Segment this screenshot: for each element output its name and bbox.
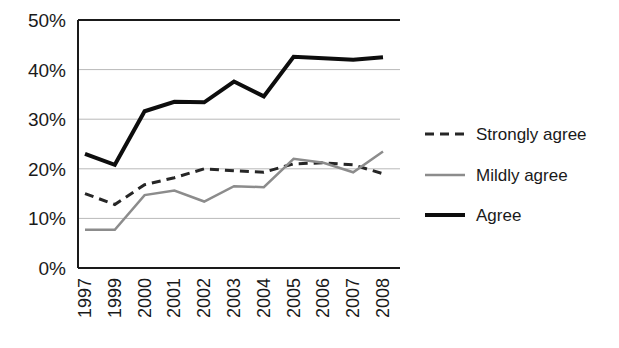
y-tick-label-0pct: 0%: [39, 258, 67, 279]
x-tick-label-2001: 2001: [164, 278, 184, 318]
x-tick-label-2004: 2004: [254, 278, 274, 318]
x-tick-label-2007: 2007: [343, 278, 363, 318]
line-chart: 0%10%20%30%40%50% 1997199920002001200220…: [0, 0, 619, 348]
legend-label-strongly-agree: Strongly agree: [476, 125, 587, 144]
x-tick-label-2008: 2008: [373, 278, 393, 318]
y-tick-label-40pct: 40%: [28, 60, 66, 81]
x-tick-label-2002: 2002: [194, 278, 214, 318]
y-tick-label-20pct: 20%: [28, 159, 66, 180]
chart-container: 0%10%20%30%40%50% 1997199920002001200220…: [0, 0, 619, 348]
x-tick-label-1999: 1999: [105, 278, 125, 318]
legend-label-agree: Agree: [476, 206, 521, 225]
y-tick-label-10pct: 10%: [28, 208, 66, 229]
x-tick-label-2005: 2005: [284, 278, 304, 318]
x-axis-tick-labels: 1997199920002001200220032004200520062007…: [75, 278, 393, 318]
x-tick-label-1997: 1997: [75, 278, 95, 318]
y-tick-label-30pct: 30%: [28, 109, 66, 130]
legend-label-mildly-agree: Mildly agree: [476, 166, 568, 185]
x-tick-label-2006: 2006: [313, 278, 333, 318]
y-tick-label-50pct: 50%: [28, 10, 66, 31]
x-tick-label-2003: 2003: [224, 278, 244, 318]
x-tick-label-2000: 2000: [135, 278, 155, 318]
